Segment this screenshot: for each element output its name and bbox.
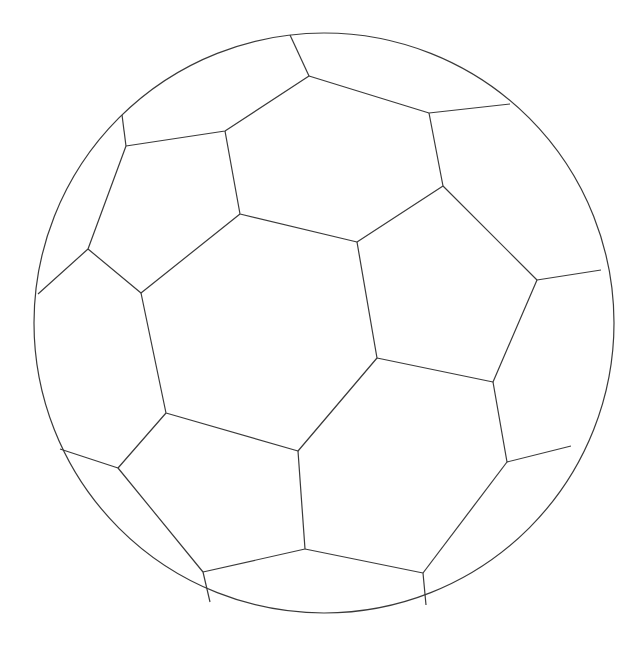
soccer-ball-drawing bbox=[0, 0, 634, 654]
ball-outline bbox=[34, 33, 614, 613]
